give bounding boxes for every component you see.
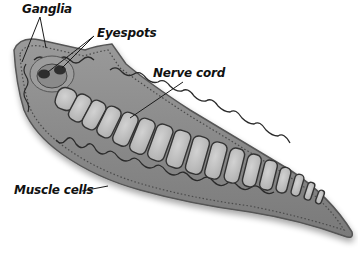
eyespot-left [38,70,50,79]
head-region [30,56,74,92]
label-eyespots: Eyespots [97,26,156,40]
label-ganglia: Ganglia [22,2,72,16]
flatworm-illustration [0,0,358,262]
eyespot-right [54,66,66,75]
label-muscle-cells: Muscle cells [14,183,93,197]
label-nerve-cord: Nerve cord [153,66,225,80]
flatworm-diagram: Ganglia Eyespots Nerve cord Muscle cells [0,0,358,262]
